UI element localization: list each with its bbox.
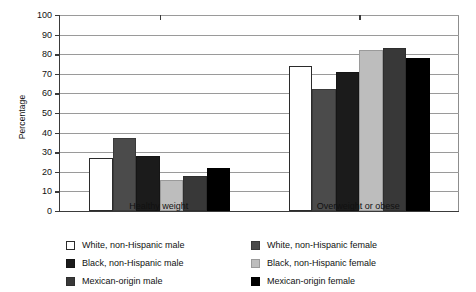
gridline xyxy=(60,15,459,16)
bar xyxy=(383,48,407,211)
legend-item: Mexican-origin female xyxy=(251,276,466,286)
legend-label: Black, non-Hispanic male xyxy=(82,258,184,268)
y-axis-tick xyxy=(55,54,60,55)
y-axis-tick-label: 90 xyxy=(42,30,52,40)
y-axis-tick-label: 40 xyxy=(42,128,52,138)
y-axis-title: Percentage xyxy=(17,57,27,177)
bar xyxy=(89,158,113,211)
legend-swatch-icon xyxy=(251,277,260,286)
y-axis-tick xyxy=(55,93,60,94)
legend-label: Black, non-Hispanic female xyxy=(267,258,376,268)
plot-area: 1009080706050403020100 xyxy=(59,15,459,212)
legend-swatch-icon xyxy=(251,241,260,250)
bar xyxy=(336,72,360,211)
y-axis-tick xyxy=(55,133,60,134)
x-axis-category-label: Overweight or obese xyxy=(317,201,400,211)
y-axis-tick-label: 80 xyxy=(42,49,52,59)
legend-label: Mexican-origin female xyxy=(267,276,355,286)
legend-item: Black, non-Hispanic female xyxy=(251,258,466,268)
y-axis-tick xyxy=(55,113,60,114)
y-axis-tick-label: 20 xyxy=(42,167,52,177)
legend-item: White, non-Hispanic female xyxy=(251,240,466,250)
y-axis-tick-label: 0 xyxy=(47,206,52,216)
y-axis-tick-label: 70 xyxy=(42,69,52,79)
legend-label: White, non-Hispanic female xyxy=(267,240,377,250)
y-axis-tick-label: 10 xyxy=(42,186,52,196)
bar xyxy=(312,89,336,211)
legend-swatch-icon xyxy=(251,259,260,268)
y-axis-tick xyxy=(55,191,60,192)
y-axis-tick-label: 50 xyxy=(42,108,52,118)
y-axis-tick-label: 100 xyxy=(37,10,52,20)
y-axis-tick xyxy=(55,35,60,36)
legend: White, non-Hispanic maleWhite, non-Hispa… xyxy=(66,236,466,290)
legend-swatch-icon xyxy=(66,277,75,286)
y-axis-tick xyxy=(55,152,60,153)
y-axis-tick-label: 30 xyxy=(42,147,52,157)
y-axis-tick xyxy=(55,211,60,212)
x-axis-tick xyxy=(160,15,161,20)
y-axis-tick xyxy=(55,172,60,173)
y-axis-tick xyxy=(55,15,60,16)
bar xyxy=(359,50,383,211)
x-axis-category-label: Healthy weight xyxy=(129,201,188,211)
legend-label: Mexican-origin male xyxy=(82,276,163,286)
bar xyxy=(207,168,231,211)
legend-swatch-icon xyxy=(66,241,75,250)
x-axis-tick xyxy=(359,15,360,20)
y-axis-tick xyxy=(55,74,60,75)
gridline xyxy=(60,35,459,36)
y-axis-tick-label: 60 xyxy=(42,88,52,98)
bar xyxy=(406,58,430,211)
bar xyxy=(289,66,313,211)
bar-chart: Percentage 1009080706050403020100 Health… xyxy=(0,0,476,292)
legend-item: White, non-Hispanic male xyxy=(66,240,251,250)
legend-item: Black, non-Hispanic male xyxy=(66,258,251,268)
legend-item: Mexican-origin male xyxy=(66,276,251,286)
legend-swatch-icon xyxy=(66,259,75,268)
legend-label: White, non-Hispanic male xyxy=(82,240,185,250)
